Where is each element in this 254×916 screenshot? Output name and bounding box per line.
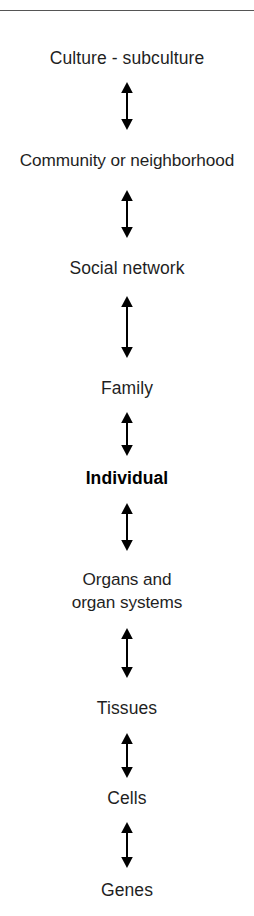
level-label-tissues: Tissues: [0, 697, 254, 720]
arrow-social-family: [0, 296, 254, 358]
arrow-community-social: [0, 190, 254, 238]
level-label-community-or-neighborhood: Community or neighborhood: [0, 149, 254, 172]
arrow-tissues-cells: [0, 733, 254, 778]
arrow-organs-tissues: [0, 628, 254, 678]
top-divider-rule: [0, 10, 254, 11]
level-label-individual: Individual: [0, 467, 254, 490]
arrow-cells-genes: [0, 822, 254, 868]
level-label-genes: Genes: [0, 879, 254, 902]
arrow-individual-organs: [0, 503, 254, 551]
level-label-organs-and-organ-systems: Organs and organ systems: [0, 568, 254, 614]
level-label-cells: Cells: [0, 787, 254, 810]
level-label-culture-subculture: Culture - subculture: [0, 47, 254, 70]
arrow-family-individual: [0, 412, 254, 456]
level-label-family: Family: [0, 377, 254, 400]
arrow-culture-community: [0, 82, 254, 130]
hierarchy-diagram: Culture - subcultureCommunity or neighbo…: [0, 0, 254, 916]
level-label-social-network: Social network: [0, 257, 254, 280]
